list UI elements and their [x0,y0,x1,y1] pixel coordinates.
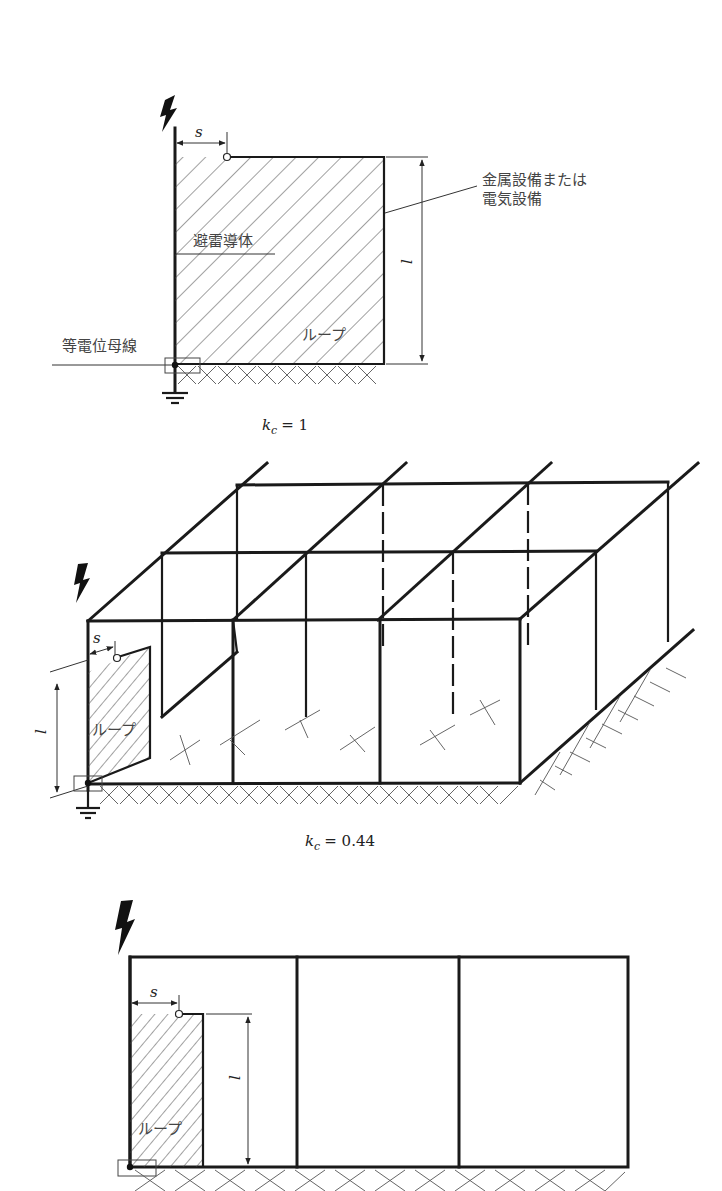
s-label: s [195,123,203,141]
bonding-bar-label: 等電位母線 [62,337,137,355]
loop-label: ループ [138,1120,182,1138]
frame-outline [130,957,628,1167]
equipment-label-line2: 電気設備 [482,190,542,208]
panel-single-conductor: s l 金属設備または 電気設備 避雷導体 ループ 等電位母線 [52,95,587,437]
l-label: l [226,1075,244,1080]
lightning-bolt-icon [160,95,177,132]
kc-value-2: kc= 0.44 [305,832,375,853]
earth-symbol-icon [162,393,188,403]
ground-hatch [135,1170,625,1191]
loop-label: ループ [92,721,136,739]
l-label: l [32,729,50,734]
lightning-bolt-icon [74,563,90,603]
ground-hatch [178,366,376,384]
loop-label: ループ [302,326,346,344]
lightning-protection-diagram: s l 金属設備または 電気設備 避雷導体 ループ 等電位母線 [0,0,722,1191]
s-label: s [93,629,101,647]
kc-value-1: kc= 1 [262,416,308,437]
loop-area [175,157,384,364]
panel-three-bay-frame: s ループ l [115,900,628,1191]
gap-point [224,154,231,161]
l-label: l [398,259,416,264]
s-label: s [150,983,158,1001]
lightning-bolt-icon [115,900,135,955]
equipment-label-line1: 金属設備または [482,171,587,189]
panel-mesh-3d: s ループ l kc= 0.44 [32,463,698,853]
earth-symbol-icon [76,808,100,818]
down-conductor-label: 避雷導体 [193,232,253,250]
